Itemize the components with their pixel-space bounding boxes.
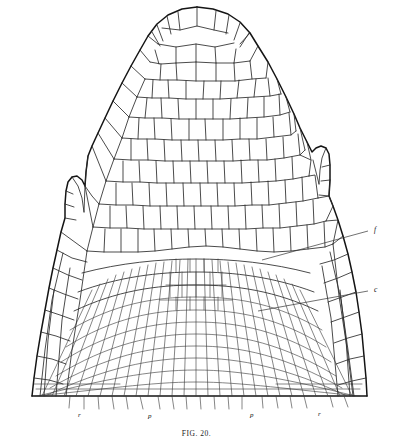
figure-caption: FIG. 20. (0, 429, 393, 438)
label-r-left: r (78, 411, 81, 419)
mid-cortex-cells (85, 186, 338, 252)
label-r-right: r (318, 410, 321, 418)
label-p-left: p (147, 412, 152, 420)
apical-dome-cells (131, 7, 268, 81)
label-f: f (374, 225, 377, 234)
procambium-fan-cells (35, 259, 360, 396)
figure-container: f c r p p r FIG. 2 (0, 0, 393, 445)
leaf-primordium-right (313, 148, 330, 196)
basal-tick-marks (69, 396, 348, 409)
shoot-apex-illustration: f c r p p r (0, 0, 393, 445)
leader-line-f (262, 231, 368, 260)
label-p-right: p (249, 411, 254, 419)
upper-cortex-cells (85, 78, 330, 206)
label-c: c (374, 285, 378, 294)
outer-flank-cells (34, 232, 366, 396)
